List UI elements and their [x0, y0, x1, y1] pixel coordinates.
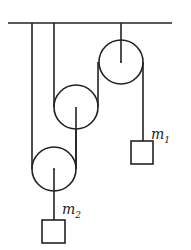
pulley-diagram: m1 m2 [0, 0, 191, 250]
top-pulley-axle [120, 61, 122, 63]
bottom-pulley-axle [53, 168, 55, 170]
mass-m2 [42, 220, 65, 243]
mass-m1 [131, 141, 153, 164]
m1-label: m1 [151, 126, 170, 145]
m2-label: m2 [62, 201, 81, 220]
